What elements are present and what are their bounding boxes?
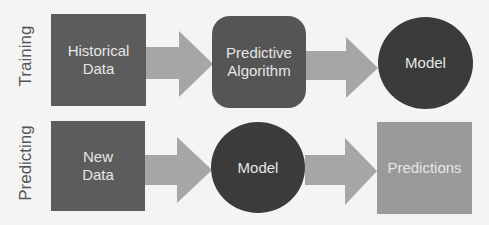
predictive-algorithm-label: Predictive Algorithm [226,44,292,80]
model-node-predicting: Model [211,122,305,213]
model-label-predicting: Model [238,159,279,177]
historical-data-node: Historical Data [51,14,146,106]
arrow-right-icon [145,137,212,204]
new-data-node: New Data [51,121,145,211]
predictive-algorithm-node: Predictive Algorithm [212,16,306,108]
arrow-right-icon [305,138,377,205]
arrow-right-icon [146,31,213,98]
model-node-training: Model [378,17,473,109]
row-label-predicting: Predicting [16,113,36,213]
predictions-node: Predictions [377,122,472,214]
new-data-label: New Data [82,148,114,184]
historical-data-label: Historical Data [68,42,130,78]
predictions-label: Predictions [387,159,461,177]
row-label-training: Training [16,6,36,106]
model-label-training: Model [405,54,446,72]
arrow-right-icon [306,37,378,99]
